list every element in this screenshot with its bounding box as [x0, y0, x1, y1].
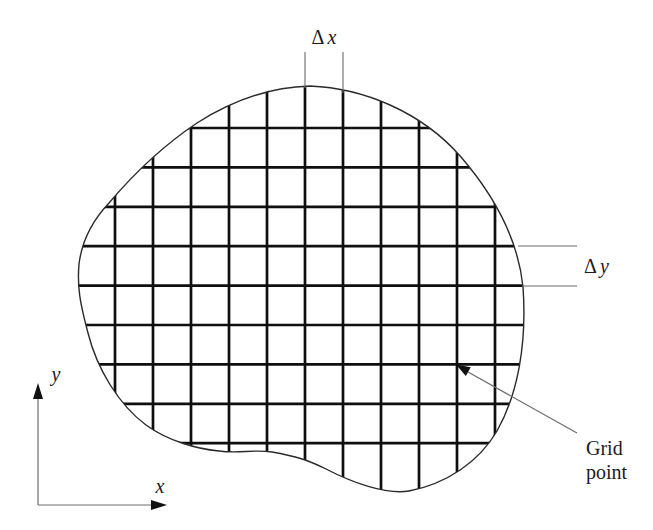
dx-annotation: Δx [305, 26, 343, 93]
dx-label: Δx [312, 26, 337, 48]
x-axis-arrowhead-icon [151, 500, 167, 510]
grid-point-label-line1: Grid [586, 437, 623, 459]
grid-point-annotation: Grid point [456, 364, 628, 484]
diagram-canvas: Δx Δy Grid point y x [0, 0, 653, 530]
y-axis-arrowhead-icon [33, 383, 43, 399]
dy-annotation: Δy [518, 246, 609, 286]
coordinate-axes: y x [33, 363, 167, 510]
grid-lines [66, 75, 536, 506]
grid-point-label-line2: point [586, 461, 628, 484]
x-axis-label: x [155, 475, 165, 497]
dy-label: Δy [584, 255, 609, 278]
y-axis-label: y [50, 363, 61, 386]
finite-difference-grid-figure: Δx Δy Grid point y x [0, 0, 653, 530]
